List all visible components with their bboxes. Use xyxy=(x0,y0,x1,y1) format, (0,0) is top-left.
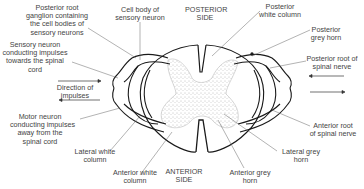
text: sensory neurons xyxy=(22,29,92,37)
label-sensory-neuron: Sensory neuron conducting impulses towar… xyxy=(0,41,70,74)
text: spinal nerve xyxy=(300,63,364,71)
anterior-side-label: ANTERIOR SIDE xyxy=(164,168,204,184)
label-motor-neuron: Motor neuron conducting impulses away fr… xyxy=(10,113,70,146)
label-anterior-white-column: Anterior white column xyxy=(108,169,162,185)
left-nerve xyxy=(113,54,170,132)
label-direction-of-impulses: Direction of impulses xyxy=(50,84,100,100)
label-anterior-root-spinal-nerve: Anterior root of spinal nerve xyxy=(304,122,362,138)
label-lateral-grey-horn: Lateral grey horn xyxy=(276,148,326,164)
text: horn xyxy=(276,156,326,164)
text: column xyxy=(70,156,120,164)
text: column xyxy=(108,177,162,185)
text: spinal cord xyxy=(10,138,70,146)
text: white column xyxy=(252,11,308,19)
label-anterior-grey-horn: Anterior grey horn xyxy=(225,169,275,185)
label-posterior-root-spinal-nerve: Posterior root of spinal nerve xyxy=(300,55,364,71)
right-nerve xyxy=(234,53,291,132)
text: grey horn xyxy=(304,34,348,42)
label-lateral-white-column: Lateral white column xyxy=(70,148,120,164)
label-posterior-white-column: Posterior white column xyxy=(252,3,308,19)
text: SIDE xyxy=(164,176,204,184)
label-cell-body-sensory: Cell body of sensory neuron xyxy=(112,6,168,22)
posterior-side-label: POSTERIOR SIDE xyxy=(185,6,225,22)
label-posterior-root-ganglion: Posterior root ganglion containing the c… xyxy=(22,4,92,37)
label-posterior-grey-horn: Posterior grey horn xyxy=(304,26,348,42)
text: SIDE xyxy=(185,14,225,22)
text: horn xyxy=(225,177,275,185)
text: impulses xyxy=(50,92,100,100)
text: cord xyxy=(0,66,70,74)
text: sensory neuron xyxy=(112,14,168,22)
text: of spinal nerve xyxy=(304,130,362,138)
